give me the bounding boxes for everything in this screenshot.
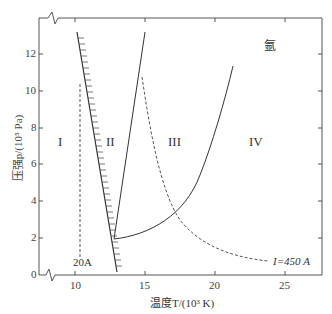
x-tick-15: 15 <box>139 279 150 291</box>
x-tick-25: 25 <box>279 279 290 291</box>
label-450A: I=450 A <box>273 255 310 267</box>
label-20A: 20A <box>73 256 92 268</box>
y-tick-6: 6 <box>31 157 37 169</box>
region-III: III <box>168 134 181 150</box>
y-tick-4: 4 <box>31 194 37 206</box>
region-IV: IV <box>249 134 263 150</box>
curve-450A <box>142 77 268 261</box>
y-tick-8: 8 <box>31 121 37 133</box>
y-tick-12: 12 <box>25 47 36 59</box>
y-axis-title: 压强p/(10⁵ Pa) <box>9 83 25 213</box>
region-I: I <box>58 134 62 150</box>
y-tick-10: 10 <box>25 84 36 96</box>
gas-label: 氩 <box>264 36 276 54</box>
x-tick-20: 20 <box>209 279 220 291</box>
x-axis-title: 温度T/(10³ K) <box>150 294 214 310</box>
region-II: II <box>106 134 115 150</box>
y-tick-0: 0 <box>31 268 37 280</box>
curve-III-IV <box>114 66 233 239</box>
curve-II-III <box>114 32 145 239</box>
y-tick-2: 2 <box>31 231 37 243</box>
x-tick-10: 10 <box>70 279 81 291</box>
